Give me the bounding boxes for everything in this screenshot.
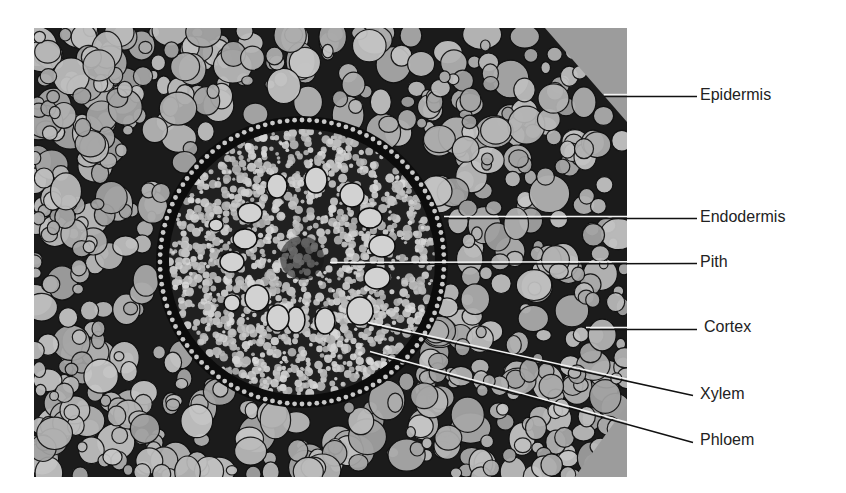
pith-core bbox=[280, 236, 324, 280]
label-xylem: Xylem bbox=[700, 385, 744, 403]
label-epidermis: Epidermis bbox=[700, 86, 771, 104]
label-pith: Pith bbox=[700, 253, 728, 271]
label-phloem: Phloem bbox=[700, 431, 754, 449]
root-cross-section-diagram bbox=[0, 0, 846, 493]
label-cortex: Cortex bbox=[704, 318, 751, 336]
micrograph-image bbox=[16, 12, 639, 489]
leader-highlight-pith bbox=[330, 262, 627, 263]
leader-line-pith bbox=[330, 264, 697, 265]
label-endodermis: Endodermis bbox=[700, 208, 785, 226]
